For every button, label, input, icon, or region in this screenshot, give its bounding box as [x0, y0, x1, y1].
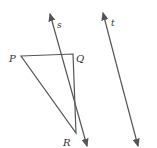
label-s: s	[57, 20, 62, 30]
label-p: P	[8, 53, 16, 64]
label-q: Q	[76, 53, 84, 64]
line-t	[121, 80, 139, 146]
label-r: R	[62, 137, 71, 148]
geometry-diagram: P Q R s t	[0, 0, 157, 148]
line-s	[69, 80, 88, 146]
triangle-pqr	[21, 54, 76, 133]
label-t: t	[111, 18, 115, 28]
